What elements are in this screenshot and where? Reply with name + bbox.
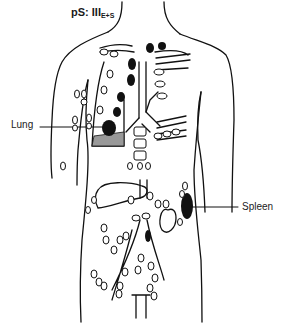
pelvic-vessels	[132, 295, 150, 318]
node	[157, 93, 167, 99]
node	[128, 163, 133, 170]
node	[154, 69, 164, 75]
lung-lesion	[102, 120, 116, 136]
vertebra	[134, 151, 146, 160]
node	[100, 49, 108, 55]
stage-title: pS: IIIE+S	[71, 6, 114, 19]
lung-label: Lung	[11, 119, 33, 130]
node	[178, 219, 183, 226]
node	[97, 106, 103, 114]
node	[135, 266, 141, 274]
node	[117, 236, 123, 244]
node	[103, 236, 109, 244]
node	[155, 200, 161, 208]
involved-node	[117, 92, 125, 102]
liver-outline	[95, 183, 147, 208]
node	[101, 86, 107, 94]
node	[155, 81, 165, 87]
involved-node	[145, 230, 151, 242]
involved-node	[146, 43, 154, 53]
node	[101, 224, 107, 232]
node	[86, 207, 91, 214]
involved-node	[127, 74, 135, 86]
stage-title-subscript: E+S	[101, 12, 114, 19]
node	[163, 131, 171, 137]
node	[151, 292, 157, 300]
node	[101, 282, 107, 290]
vertebra	[134, 139, 146, 148]
node	[92, 197, 97, 204]
node	[138, 163, 143, 170]
node	[117, 282, 123, 290]
node	[110, 51, 118, 57]
node	[128, 196, 134, 204]
stage-title-main: pS: III	[71, 6, 101, 18]
node	[111, 246, 117, 254]
node	[81, 99, 87, 105]
ribs-right-upper	[156, 54, 190, 70]
node	[123, 232, 129, 240]
node	[87, 123, 92, 129]
vertebra	[134, 127, 146, 136]
node	[73, 125, 78, 131]
node	[107, 70, 113, 78]
node	[152, 274, 158, 282]
node	[61, 162, 66, 170]
node	[73, 116, 78, 124]
node	[132, 215, 140, 221]
node	[163, 200, 169, 208]
node	[147, 284, 153, 292]
node	[87, 114, 92, 122]
node	[138, 254, 144, 262]
node	[75, 90, 80, 98]
node	[154, 133, 162, 139]
node	[146, 163, 151, 170]
kidney-outline	[160, 209, 176, 232]
node	[91, 270, 97, 278]
node	[183, 182, 188, 190]
node	[147, 192, 153, 200]
involved-node	[113, 107, 121, 117]
node	[148, 262, 154, 270]
left-shoulder-outline	[51, 32, 108, 178]
involved-node	[128, 58, 136, 70]
node	[180, 191, 185, 198]
spleen-label: Spleen	[242, 201, 273, 212]
node	[142, 213, 150, 219]
neck-right-outline	[164, 2, 180, 34]
uninvolved-nodes	[61, 49, 188, 300]
torso-diagram	[0, 0, 285, 324]
node	[116, 290, 122, 298]
node	[82, 90, 87, 98]
node	[122, 268, 128, 276]
bronchi	[126, 92, 160, 132]
node	[172, 129, 180, 135]
involved-node	[158, 42, 166, 50]
trachea	[139, 62, 146, 118]
